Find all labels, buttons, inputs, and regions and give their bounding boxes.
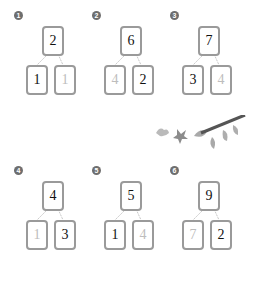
part-left-box: 1: [104, 220, 126, 250]
part-right-box: 1: [54, 65, 76, 95]
problem-3: 3 7 3 4: [156, 0, 236, 100]
part-left-box: 1: [26, 65, 48, 95]
part-left-box: 1: [26, 220, 48, 250]
whole-number-box: 4: [42, 181, 64, 211]
part-right-box: 2: [132, 65, 154, 95]
problem-number-badge: 6: [170, 166, 179, 175]
leaves-branch-icon: [150, 115, 253, 155]
part-right-box: 3: [54, 220, 76, 250]
problem-1: 1 2 1 1: [0, 0, 80, 100]
part-left-box: 3: [182, 65, 204, 95]
part-right-box: 4: [210, 65, 232, 95]
problem-2: 2 6 4 2: [78, 0, 158, 100]
whole-number-box: 6: [120, 26, 142, 56]
part-right-box: 4: [132, 220, 154, 250]
problem-number-badge: 1: [14, 11, 23, 20]
problem-4: 4 4 1 3: [0, 155, 80, 255]
whole-number-box: 2: [42, 26, 64, 56]
whole-number-box: 5: [120, 181, 142, 211]
part-left-box: 4: [104, 65, 126, 95]
problem-6: 6 9 7 2: [156, 155, 236, 255]
part-left-box: 7: [182, 220, 204, 250]
problem-5: 5 5 1 4: [78, 155, 158, 255]
part-right-box: 2: [210, 220, 232, 250]
problem-number-badge: 4: [14, 166, 23, 175]
whole-number-box: 9: [198, 181, 220, 211]
problem-number-badge: 5: [92, 166, 101, 175]
problem-number-badge: 3: [170, 11, 179, 20]
whole-number-box: 7: [198, 26, 220, 56]
problem-number-badge: 2: [92, 11, 101, 20]
